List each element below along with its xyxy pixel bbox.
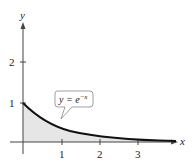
x-tick-label-3: 3: [135, 148, 141, 160]
x-axis-label: x: [179, 135, 185, 147]
equation-callout: y = e−x: [55, 91, 93, 119]
y-axis-arrow-icon: [21, 22, 26, 29]
x-tick-label-2: 2: [97, 148, 103, 160]
chart: 1 2 3 1 2 x y y = e−x: [0, 0, 192, 164]
y-tick-label-1: 1: [9, 97, 15, 109]
y-tick-label-2: 2: [9, 56, 15, 68]
x-tick-label-1: 1: [59, 148, 65, 160]
y-axis-label: y: [19, 9, 25, 21]
